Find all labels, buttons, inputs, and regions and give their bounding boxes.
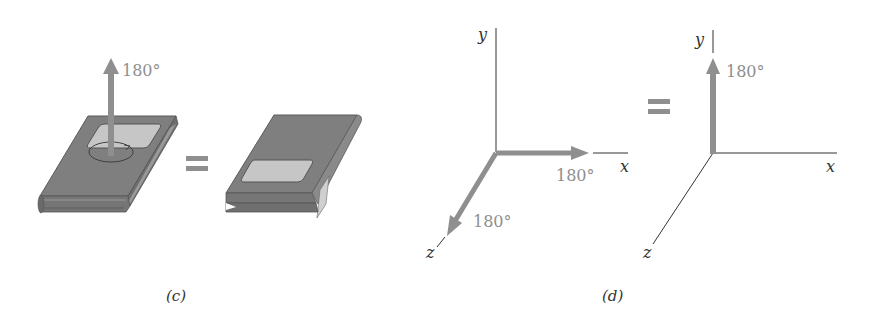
book-after-rotation: [226, 115, 362, 218]
x-rotation-label: 180°: [556, 166, 595, 185]
equals-sign-c: [186, 156, 208, 171]
caption-d: (d): [602, 287, 623, 305]
right-z-axis-label: z: [642, 243, 652, 262]
left-z-axis-label: z: [425, 243, 435, 262]
right-y-axis-label: y: [694, 30, 705, 49]
right-x-axis-label: x: [826, 157, 835, 176]
left-axes: [437, 28, 628, 247]
left-y-axis-label: y: [477, 25, 488, 44]
rotation-angle-label: 180°: [122, 61, 161, 80]
figure-canvas: 180° (c): [0, 0, 880, 322]
panel-c: 180° (c): [38, 58, 362, 305]
caption-c: (c): [166, 287, 186, 305]
equals-sign-d: [648, 99, 670, 114]
y-rotation-label: 180°: [726, 62, 765, 81]
left-x-axis-label: x: [620, 157, 629, 176]
z-rotation-label: 180°: [473, 212, 512, 231]
panel-d: y x z 180° 180° y x z 180° (d): [425, 25, 837, 305]
